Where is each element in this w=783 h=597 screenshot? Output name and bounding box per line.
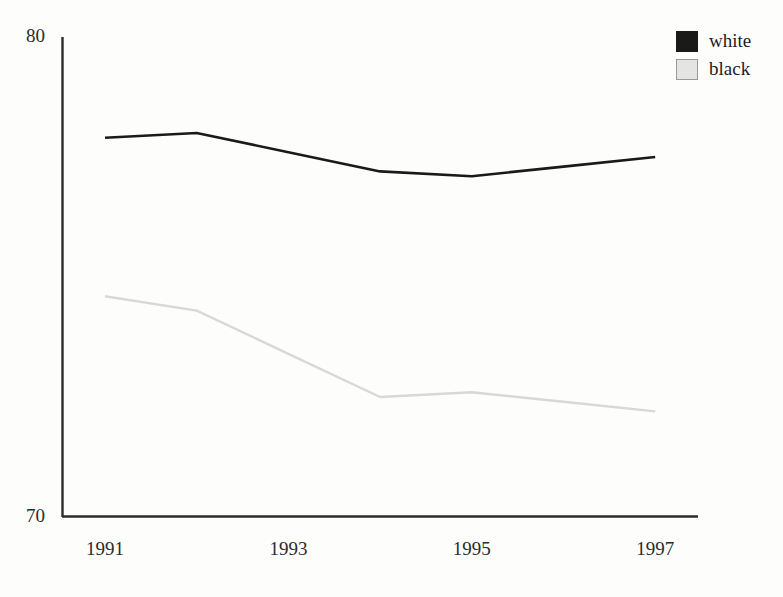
x-tick-label-1995: 1995 <box>453 538 491 560</box>
series-line-white <box>105 133 655 176</box>
x-tick-label-1997: 1997 <box>636 538 674 560</box>
legend-item-white[interactable]: white <box>676 27 780 55</box>
x-tick-label-1991: 1991 <box>86 538 124 560</box>
legend-swatch-icon-black <box>676 59 698 80</box>
x-tick-label-1993: 1993 <box>269 538 307 560</box>
series-line-black <box>105 296 655 411</box>
legend: whiteblack <box>676 27 780 83</box>
plot-area <box>0 0 783 597</box>
line-chart: 80 70 1991199319951997 whiteblack <box>0 0 783 597</box>
legend-label: white <box>709 30 751 52</box>
legend-label: black <box>709 58 750 80</box>
legend-swatch-icon-white <box>676 31 698 52</box>
legend-item-black[interactable]: black <box>676 55 780 83</box>
